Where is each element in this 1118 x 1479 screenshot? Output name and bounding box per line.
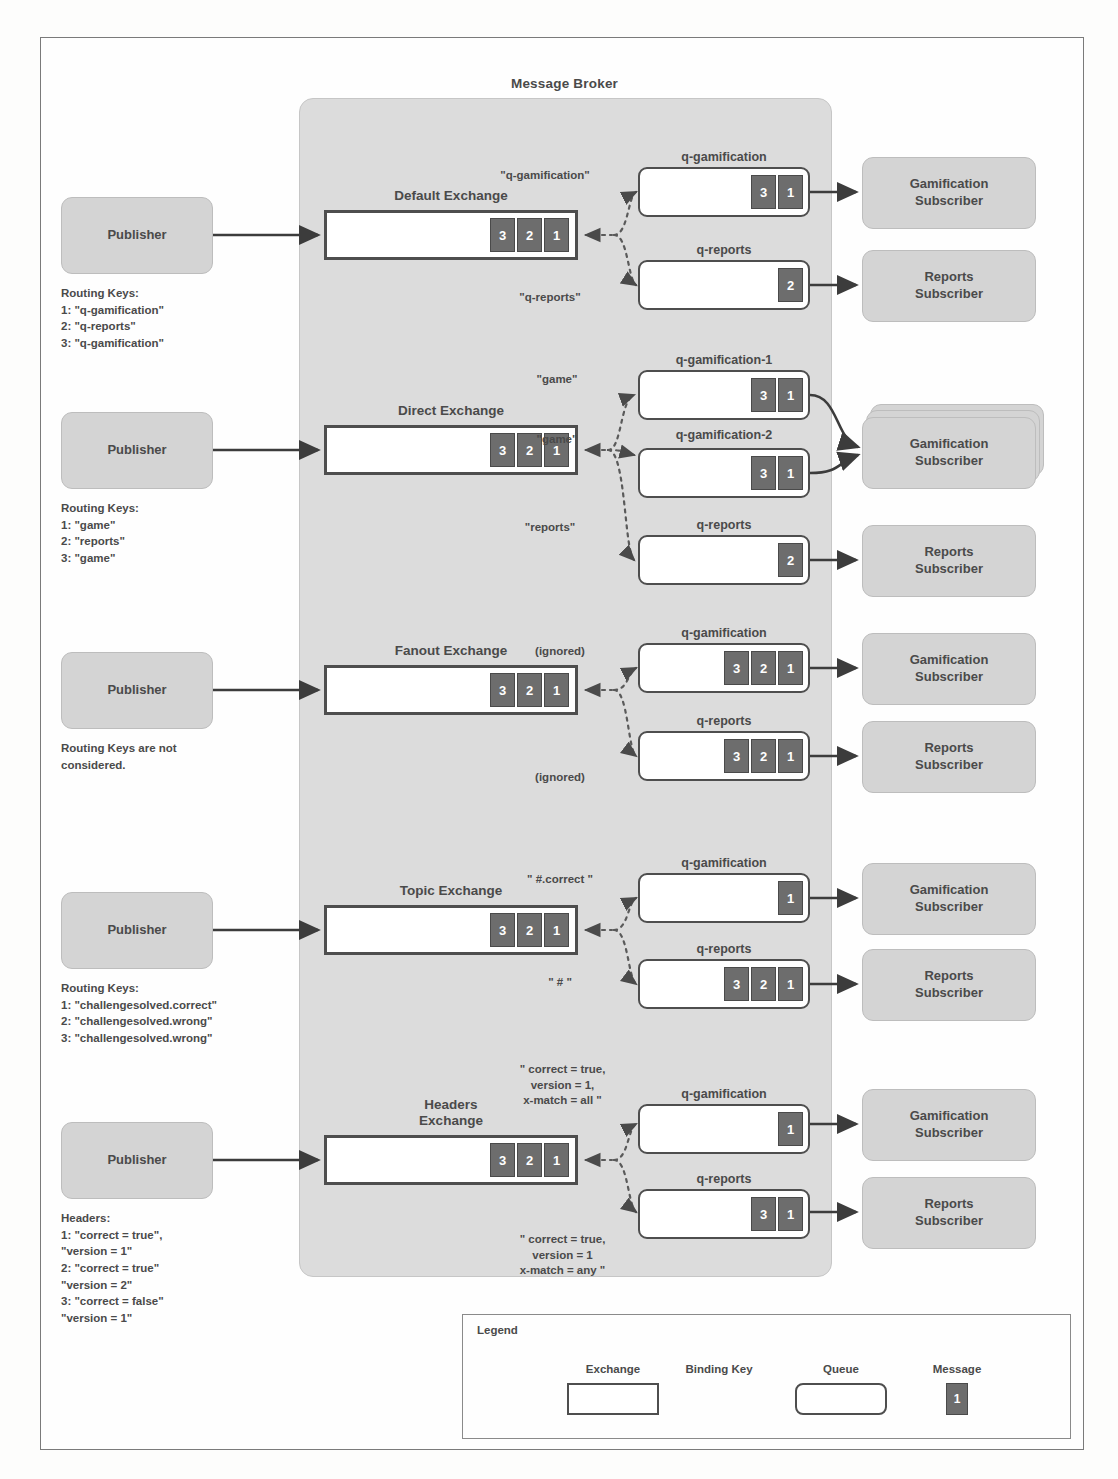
exchange-messages-default: 3 2 1 xyxy=(490,218,569,252)
subscriber-reports-default[interactable]: Reports Subscriber xyxy=(862,250,1036,322)
message: 3 xyxy=(724,967,749,1001)
subscriber-reports-direct[interactable]: Reports Subscriber xyxy=(862,525,1036,597)
message: 1 xyxy=(778,378,803,412)
message: 3 xyxy=(490,913,515,947)
binding-key-default-0: "q-gamification" xyxy=(480,168,610,184)
subscriber-gamification-default[interactable]: Gamification Subscriber xyxy=(862,157,1036,229)
binding-key-headers-0: " correct = true, version = 1, x-match =… xyxy=(500,1062,625,1109)
message: 1 xyxy=(544,218,569,252)
message: 1 xyxy=(778,881,803,915)
queue-label-topic-0: q-gamification xyxy=(619,856,829,870)
message: 1 xyxy=(544,673,569,707)
message: 2 xyxy=(751,651,776,685)
queue-label-headers-1: q-reports xyxy=(619,1172,829,1186)
queue-label-default-1: q-reports xyxy=(619,243,829,257)
queue-direct-2[interactable]: 2 xyxy=(638,535,810,585)
message: 2 xyxy=(751,739,776,773)
queue-label-direct-2: q-reports xyxy=(619,518,829,532)
message: 3 xyxy=(724,739,749,773)
subscriber-gamification-fanout[interactable]: Gamification Subscriber xyxy=(862,633,1036,705)
publisher-topic[interactable]: Publisher xyxy=(61,892,213,969)
queue-direct-1[interactable]: 3 1 xyxy=(638,448,810,498)
queue-default-0[interactable]: 3 1 xyxy=(638,167,810,217)
message: 3 xyxy=(490,218,515,252)
queue-messages-fanout-1: 3 2 1 xyxy=(724,739,803,773)
exchange-messages-headers: 3 2 1 xyxy=(490,1143,569,1177)
exchange-label-default: Default Exchange xyxy=(324,188,578,204)
message: 2 xyxy=(517,1143,542,1177)
message: 3 xyxy=(490,673,515,707)
message: 3 xyxy=(751,378,776,412)
exchange-fanout[interactable]: 3 2 1 xyxy=(324,665,578,715)
binding-key-topic-0: " #.correct " xyxy=(505,872,615,888)
subscriber-reports-fanout[interactable]: Reports Subscriber xyxy=(862,721,1036,793)
queue-label-direct-1: q-gamification-2 xyxy=(619,428,829,442)
queue-topic-0[interactable]: 1 xyxy=(638,873,810,923)
exchange-messages-topic: 3 2 1 xyxy=(490,913,569,947)
legend-panel: Legend Exchange Binding Key Queue Messag… xyxy=(462,1314,1071,1439)
message: 1 xyxy=(778,175,803,209)
message: 2 xyxy=(517,673,542,707)
message: 2 xyxy=(778,543,803,577)
subscriber-gamification-topic[interactable]: Gamification Subscriber xyxy=(862,863,1036,935)
queue-fanout-0[interactable]: 3 2 1 xyxy=(638,643,810,693)
legend-exchange-label: Exchange xyxy=(553,1363,673,1375)
binding-key-topic-1: " # " xyxy=(505,975,615,991)
binding-key-default-1: "q-reports" xyxy=(490,290,610,306)
publisher-default[interactable]: Publisher xyxy=(61,197,213,274)
routing-keys-fanout: Routing Keys are not considered. xyxy=(61,740,177,773)
queue-label-topic-1: q-reports xyxy=(619,942,829,956)
binding-key-direct-2: "reports" xyxy=(500,520,600,536)
exchange-headers[interactable]: 3 2 1 xyxy=(324,1135,578,1185)
message: 3 xyxy=(724,651,749,685)
headers-caption: Headers: 1: "correct = true", "version =… xyxy=(61,1210,164,1327)
subscriber-gamification-direct[interactable]: Gamification Subscriber xyxy=(862,417,1036,489)
binding-key-fanout-1: (ignored) xyxy=(510,770,610,786)
queue-messages-direct-0: 3 1 xyxy=(751,378,803,412)
legend-queue-label: Queue xyxy=(781,1363,901,1375)
message: 3 xyxy=(751,1197,776,1231)
message: 2 xyxy=(751,967,776,1001)
queue-fanout-1[interactable]: 3 2 1 xyxy=(638,731,810,781)
queue-label-direct-0: q-gamification-1 xyxy=(619,353,829,367)
subscriber-reports-topic[interactable]: Reports Subscriber xyxy=(862,949,1036,1021)
message: 3 xyxy=(751,456,776,490)
queue-headers-0[interactable]: 1 xyxy=(638,1104,810,1154)
queue-messages-default-1: 2 xyxy=(778,268,803,302)
message: 1 xyxy=(778,1197,803,1231)
subscriber-gamification-headers[interactable]: Gamification Subscriber xyxy=(862,1089,1036,1161)
message: 1 xyxy=(778,651,803,685)
message: 3 xyxy=(490,1143,515,1177)
legend-message-label: Message xyxy=(897,1363,1017,1375)
exchange-label-direct: Direct Exchange xyxy=(324,403,578,419)
queue-headers-1[interactable]: 3 1 xyxy=(638,1189,810,1239)
message: 3 xyxy=(751,175,776,209)
subscriber-reports-headers[interactable]: Reports Subscriber xyxy=(862,1177,1036,1249)
message: 1 xyxy=(778,967,803,1001)
routing-keys-direct: Routing Keys: 1: "game" 2: "reports" 3: … xyxy=(61,500,139,567)
queue-label-fanout-1: q-reports xyxy=(619,714,829,728)
legend-queue-swatch xyxy=(795,1383,887,1415)
publisher-headers[interactable]: Publisher xyxy=(61,1122,213,1199)
message-broker-title: Message Broker xyxy=(299,76,830,91)
legend-title: Legend xyxy=(477,1324,518,1336)
exchange-topic[interactable]: 3 2 1 xyxy=(324,905,578,955)
exchange-messages-fanout: 3 2 1 xyxy=(490,673,569,707)
message: 1 xyxy=(778,456,803,490)
queue-messages-headers-1: 3 1 xyxy=(751,1197,803,1231)
queue-messages-default-0: 3 1 xyxy=(751,175,803,209)
queue-messages-fanout-0: 3 2 1 xyxy=(724,651,803,685)
queue-messages-topic-0: 1 xyxy=(778,881,803,915)
exchange-default[interactable]: 3 2 1 xyxy=(324,210,578,260)
queue-topic-1[interactable]: 3 2 1 xyxy=(638,959,810,1009)
message: 1 xyxy=(544,1143,569,1177)
legend-message-swatch: 1 xyxy=(946,1383,968,1415)
message: 1 xyxy=(544,913,569,947)
queue-label-fanout-0: q-gamification xyxy=(619,626,829,640)
queue-label-default-0: q-gamification xyxy=(619,150,829,164)
publisher-direct[interactable]: Publisher xyxy=(61,412,213,489)
queue-messages-topic-1: 3 2 1 xyxy=(724,967,803,1001)
queue-direct-0[interactable]: 3 1 xyxy=(638,370,810,420)
queue-default-1[interactable]: 2 xyxy=(638,260,810,310)
publisher-fanout[interactable]: Publisher xyxy=(61,652,213,729)
